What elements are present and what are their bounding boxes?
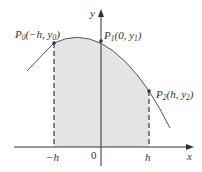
point-p1 (99, 39, 103, 43)
y-axis-label: y (89, 7, 95, 19)
point-label-p0: P0(−h, y0) (14, 28, 60, 42)
x-axis-label: x (186, 150, 192, 162)
diagram-canvas: y x 0 −h h P0(−h, y0) P1(0, y1) P2(h, y2… (0, 0, 202, 172)
point-label-p1: P1(0, y1) (103, 29, 142, 43)
y-axis-arrow-icon (98, 9, 104, 17)
point-p2 (147, 89, 151, 93)
tick-label-minus-h: −h (46, 151, 59, 163)
point-label-p2: P2(h, y2) (155, 88, 194, 102)
tick-label-h: h (145, 151, 151, 163)
origin-label: 0 (91, 149, 97, 161)
